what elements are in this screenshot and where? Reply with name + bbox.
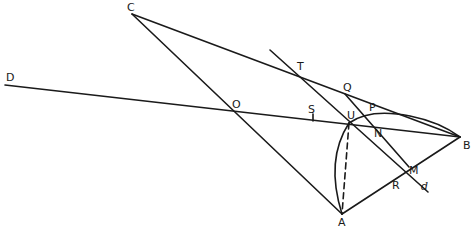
label-R: R xyxy=(392,180,400,191)
label-d: d xyxy=(421,181,428,192)
label-M: M xyxy=(409,165,419,176)
label-N: N xyxy=(374,128,382,139)
label-S: S xyxy=(308,104,315,115)
label-U: U xyxy=(347,110,355,121)
label-D: D xyxy=(6,72,14,83)
dashed-UA xyxy=(342,123,349,214)
label-P: P xyxy=(369,102,376,113)
geometry-figure xyxy=(0,0,475,230)
arc-UA xyxy=(335,123,349,214)
label-T: T xyxy=(297,61,304,72)
label-O: O xyxy=(232,99,241,110)
label-Q: Q xyxy=(343,82,352,93)
line-AB xyxy=(342,137,460,214)
label-A: A xyxy=(338,217,346,228)
label-C: C xyxy=(127,2,135,13)
diagram-canvas: C D O T Q S U P N B M R d A xyxy=(0,0,475,230)
label-B: B xyxy=(463,140,471,151)
